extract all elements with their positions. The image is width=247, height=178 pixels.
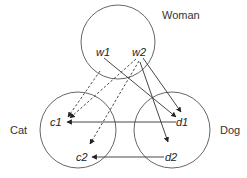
edge-w2-to-d1 [143, 58, 181, 112]
sets-group [40, 5, 210, 168]
edge-w2-to-c1 [70, 59, 136, 118]
edge-w2-to-c2 [90, 61, 139, 144]
node-d2: d2 [165, 151, 177, 163]
set-labels-group: WomanCatDog [10, 9, 240, 136]
node-c2: c2 [76, 151, 88, 163]
node-w2: w2 [132, 46, 146, 58]
node-w1: w1 [96, 46, 110, 58]
set-circle-woman [81, 5, 155, 79]
set-label-cat: Cat [10, 124, 27, 136]
edge-w1-to-c1 [68, 71, 100, 117]
edge-w1-to-d1 [104, 58, 176, 117]
node-c1: c1 [50, 116, 62, 128]
diagram-canvas: w1w2c1c2d1d2 WomanCatDog [0, 0, 247, 178]
set-label-dog: Dog [220, 124, 240, 136]
nodes-group: w1w2c1c2d1d2 [50, 46, 188, 163]
edges-group [67, 58, 181, 157]
set-label-woman: Woman [162, 9, 200, 21]
node-d1: d1 [176, 116, 188, 128]
